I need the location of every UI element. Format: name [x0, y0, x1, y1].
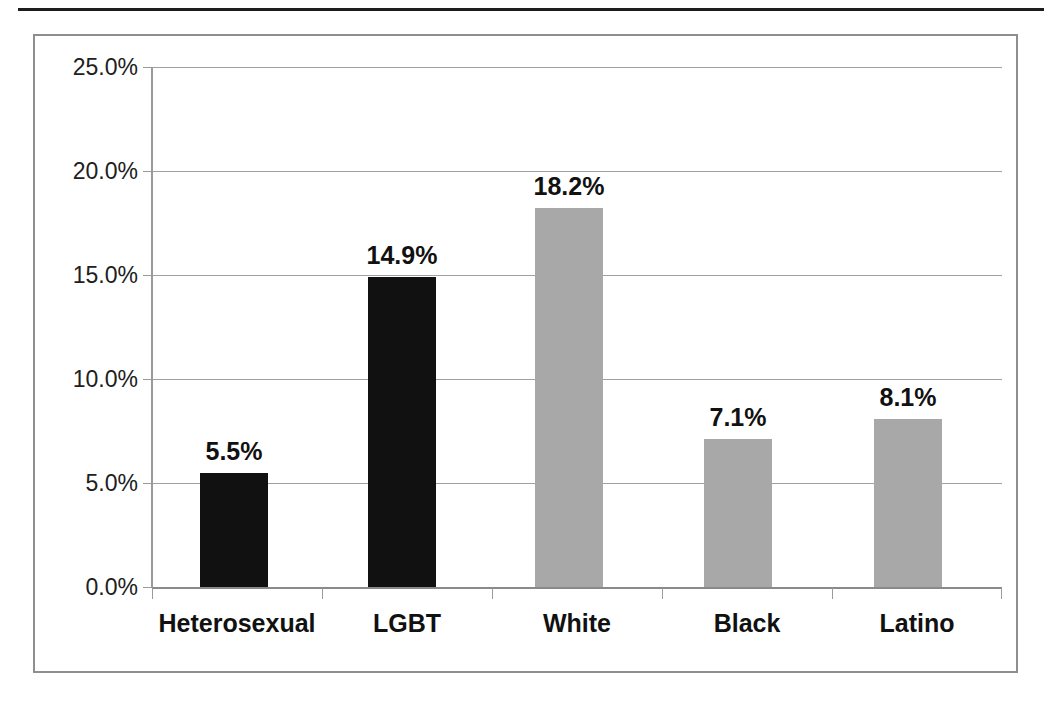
- x-category-label-black: Black: [714, 609, 781, 638]
- bar-latino[interactable]: 8.1%: [874, 419, 942, 587]
- y-tick-mark-0: [143, 587, 152, 588]
- plot-area: 25.0% 20.0% 15.0% 10.0% 5.0% 0.0% 5.5% 1…: [152, 67, 1002, 587]
- y-tick-label-15: 15.0%: [73, 262, 138, 289]
- x-category-label-lgbt: LGBT: [373, 609, 441, 638]
- bar-white[interactable]: 18.2%: [535, 208, 603, 587]
- x-tick-mark-5: [1001, 588, 1002, 599]
- x-category-label-heterosexual: Heterosexual: [158, 609, 315, 638]
- chart-frame: 25.0% 20.0% 15.0% 10.0% 5.0% 0.0% 5.5% 1…: [33, 34, 1018, 673]
- gridline-25: [152, 67, 1002, 68]
- x-tick-mark-3: [662, 588, 663, 599]
- y-tick-label-25: 25.0%: [73, 54, 138, 81]
- x-tick-mark-0: [152, 588, 153, 599]
- bar-black[interactable]: 7.1%: [704, 439, 772, 587]
- y-tick-label-0: 0.0%: [86, 574, 138, 601]
- bar-value-latino: 8.1%: [880, 383, 937, 412]
- x-tick-mark-2: [492, 588, 493, 599]
- x-axis-line: [152, 587, 1002, 589]
- y-tick-label-5: 5.0%: [86, 470, 138, 497]
- bar-value-heterosexual: 5.5%: [206, 437, 263, 466]
- top-horizontal-rule: [18, 8, 1044, 11]
- x-tick-mark-1: [322, 588, 323, 599]
- x-category-label-white: White: [543, 609, 611, 638]
- bar-value-lgbt: 14.9%: [367, 241, 438, 270]
- bar-heterosexual[interactable]: 5.5%: [200, 473, 268, 587]
- x-category-label-latino: Latino: [880, 609, 955, 638]
- y-axis-line: [151, 67, 153, 587]
- x-tick-mark-4: [832, 588, 833, 599]
- bar-value-white: 18.2%: [534, 172, 605, 201]
- bar-value-black: 7.1%: [710, 403, 767, 432]
- bar-lgbt[interactable]: 14.9%: [368, 277, 436, 587]
- y-tick-label-20: 20.0%: [73, 158, 138, 185]
- y-tick-label-10: 10.0%: [73, 366, 138, 393]
